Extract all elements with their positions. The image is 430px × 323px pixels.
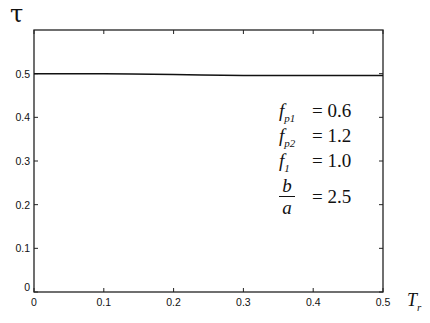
y-tick-label: 0.2 [15, 199, 30, 211]
param-f1: f1= 1.0 [279, 151, 351, 176]
series-line-tau [34, 74, 383, 76]
x-tick-label: 0.4 [306, 296, 321, 308]
y-tick-label: 0.5 [15, 68, 30, 80]
param-ba-fraction: ba [279, 176, 295, 217]
x-axis-label-main: T [407, 290, 417, 310]
y-tick-label: 0.3 [15, 155, 30, 167]
y-tick-label: 0.1 [15, 242, 30, 254]
param-ba-numerator: b [279, 176, 295, 197]
param-fp1: fp1= 0.6 [279, 101, 351, 126]
x-tick-label: 0 [31, 296, 37, 308]
data-series [34, 74, 383, 76]
param-ba-value: = 2.5 [312, 187, 351, 206]
parameter-annotations: fp1= 0.6 fp2= 1.2 f1= 1.0 ba= 2.5 [279, 101, 351, 216]
param-fp1-value: = 0.6 [312, 101, 351, 120]
x-tick-label: 0.1 [96, 296, 111, 308]
plot-area: 00.10.20.30.40.500.10.20.30.40.5 [0, 0, 430, 323]
param-fp2-value: = 1.2 [312, 126, 351, 145]
y-axis-label: τ [10, 0, 23, 28]
x-tick-label: 0.5 [376, 296, 391, 308]
x-axis-label-sub: r [417, 301, 421, 313]
param-fp2-sub: p2 [284, 137, 295, 149]
param-ba-denominator: a [279, 197, 295, 217]
x-tick-label: 0.2 [166, 296, 181, 308]
y-tick-label: 0 [24, 281, 30, 293]
param-fp2: fp2= 1.2 [279, 126, 351, 151]
y-tick-label: 0.4 [15, 111, 30, 123]
param-f1-sub: 1 [284, 162, 290, 174]
x-tick-label: 0.3 [236, 296, 251, 308]
param-fp1-sub: p1 [284, 112, 295, 124]
param-f1-value: = 1.0 [312, 151, 351, 170]
param-ba: ba= 2.5 [279, 176, 351, 216]
x-axis-label: Tr [407, 290, 421, 313]
